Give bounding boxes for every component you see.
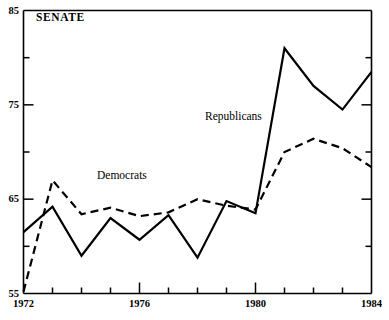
chart-title: SENATE — [36, 11, 85, 23]
x-axis-label-1984: 1984 — [352, 298, 389, 309]
y-axis-label-85: 85 — [1, 5, 19, 16]
senate-party-unity-chart: SENATE Democrats Republicans 85756555 19… — [0, 0, 389, 320]
y-axis-label-75: 75 — [1, 99, 19, 110]
x-axis-label-1976: 1976 — [120, 298, 160, 309]
y-axis-label-65: 65 — [1, 193, 19, 204]
chart-series-group — [24, 48, 372, 291]
series-line-democrats — [24, 139, 372, 292]
series-label-republicans: Republicans — [205, 110, 262, 122]
chart-axes — [24, 11, 372, 294]
series-line-republicans — [24, 48, 372, 257]
x-axis-label-1972: 1972 — [4, 298, 44, 309]
series-label-democrats: Democrats — [97, 169, 147, 181]
x-axis-label-1980: 1980 — [236, 298, 276, 309]
chart-plot-area — [0, 0, 389, 320]
